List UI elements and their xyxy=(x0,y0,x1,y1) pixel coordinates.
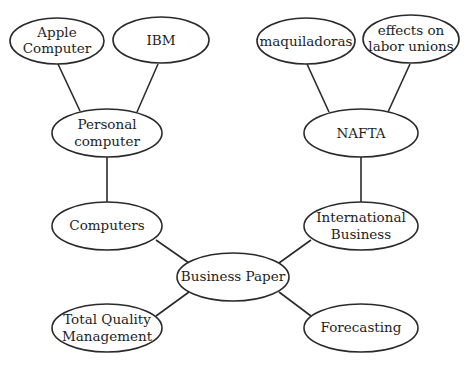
edge-effects-to-nafta xyxy=(388,64,410,112)
node-computers: Computers xyxy=(52,202,162,250)
node-label-line: Total Quality xyxy=(63,311,151,327)
cluster-diagram: Apple Computer IBM Personal computer Com… xyxy=(0,0,472,368)
node-label-line: effects on xyxy=(378,22,445,38)
edge-apple-to-personal-computer xyxy=(58,64,80,111)
node-nafta: NAFTA xyxy=(304,109,418,157)
node-label-line: IBM xyxy=(146,32,175,48)
edge-forecasting-to-business-paper xyxy=(279,292,311,316)
node-label-line: NAFTA xyxy=(337,125,386,141)
node-maquiladoras: maquiladoras xyxy=(257,18,355,64)
edge-ibm-to-personal-computer xyxy=(137,64,158,112)
node-label-line: Business xyxy=(331,226,391,242)
edge-maquiladoras-to-nafta xyxy=(307,64,329,112)
node-effects-on-labor-unions: effects on labor unions xyxy=(363,15,459,63)
node-label-line: Forecasting xyxy=(321,319,402,335)
edge-computers-to-business-paper xyxy=(156,240,189,263)
edge-international-business-to-business-paper xyxy=(279,240,311,263)
node-label-line: Computers xyxy=(69,217,144,233)
node-business-paper: Business Paper xyxy=(177,253,289,301)
node-forecasting: Forecasting xyxy=(304,304,418,352)
node-label-line: Personal xyxy=(77,116,136,132)
node-label-line: International xyxy=(316,209,406,225)
node-total-quality-management: Total Quality Management xyxy=(52,304,162,352)
node-ibm: IBM xyxy=(113,17,209,63)
node-label-line: Computer xyxy=(23,40,92,56)
node-label-line: Management xyxy=(62,328,153,344)
node-label-line: computer xyxy=(74,133,140,149)
node-international-business: International Business xyxy=(304,202,418,250)
edge-tqm-to-business-paper xyxy=(156,292,189,316)
node-label-line: Business Paper xyxy=(181,268,286,284)
node-label-line: labor unions xyxy=(368,38,453,54)
node-label-line: maquiladoras xyxy=(259,33,352,49)
node-personal-computer: Personal computer xyxy=(52,109,162,157)
node-apple-computer: Apple Computer xyxy=(10,18,104,64)
node-label-line: Apple xyxy=(36,24,76,40)
